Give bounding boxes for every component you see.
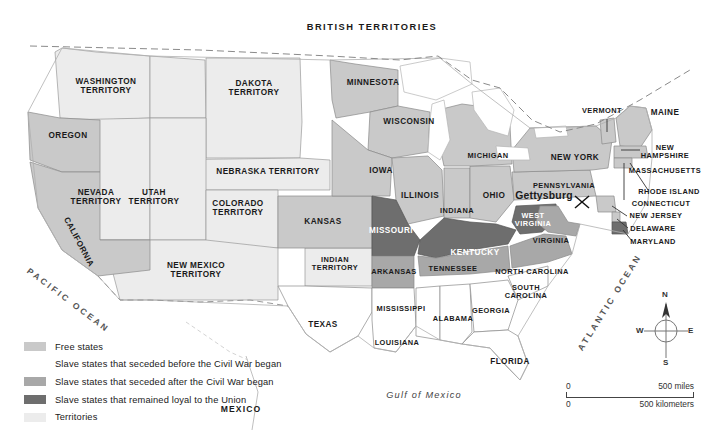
label-vermont: VERMONT — [578, 107, 626, 115]
label-indiana: INDIANA — [430, 207, 484, 215]
label-minnesota: MINNESOTA — [338, 79, 408, 88]
region-wisconsin — [368, 106, 430, 158]
map-legend: Free states Slave states that seceded be… — [24, 338, 282, 426]
legend-swatch-loyal-slave — [24, 395, 46, 404]
label-wisconsin: WISCONSIN — [376, 118, 442, 127]
compass-south-label: S — [663, 358, 668, 367]
legend-item-free-states: Free states — [24, 338, 282, 356]
legend-swatch-free-states — [24, 342, 46, 351]
label-new-mexico-territory: NEW MEXICO TERRITORY — [155, 262, 237, 280]
label-colorado-territory: COLORADO TERRITORY — [203, 200, 273, 218]
label-kentucky: KENTUCKY — [442, 249, 508, 258]
scale-bar: 0 500 miles 0 500 kilometers — [566, 381, 694, 409]
legend-label-territories: Territories — [55, 412, 97, 422]
legend-label-seceded-after: Slave states that seceded after the Civi… — [55, 377, 274, 387]
compass-rose: N E S W — [638, 292, 694, 368]
scale-miles-max: 500 miles — [658, 381, 694, 391]
lake-superior — [400, 58, 472, 100]
label-florida: FLORIDA — [481, 358, 539, 367]
compass-north-label: N — [662, 290, 668, 299]
label-west-virginia: WEST VIRGINIA — [506, 212, 560, 228]
label-new-hampshire: NEW HAMPSHIRE — [636, 144, 694, 160]
scale-miles: 0 500 miles — [566, 381, 694, 391]
label-alabama: ALABAMA — [424, 315, 482, 323]
scale-km-zero: 0 — [566, 399, 571, 409]
scale-kilometers: 0 500 kilometers — [566, 399, 694, 409]
region-mississippi — [416, 286, 440, 340]
region-oregon — [28, 112, 100, 172]
region-dakota-territory — [206, 58, 302, 158]
label-utah-territory: UTAH TERRITORY — [119, 189, 189, 207]
scale-miles-zero: 0 — [566, 381, 571, 391]
legend-item-seceded-after: Slave states that seceded after the Civi… — [24, 373, 282, 391]
legend-label-seceded-before: Slave states that seceded before the Civ… — [55, 359, 282, 369]
label-gettysburg: Gettysburg — [508, 190, 580, 201]
legend-item-seceded-before: Slave states that seceded before the Civ… — [24, 356, 282, 374]
label-south-carolina: SOUTH CAROLINA — [495, 284, 557, 300]
label-rhode-island: RHODE ISLAND — [630, 188, 708, 196]
label-new-jersey: NEW JERSEY — [622, 212, 690, 220]
label-kansas: KANSAS — [293, 218, 353, 227]
label-british-territories: BRITISH TERRITORIES — [302, 22, 442, 32]
legend-item-loyal-slave: Slave states that remained loyal to the … — [24, 391, 282, 409]
region-new-jersey — [596, 196, 616, 212]
label-missouri: MISSOURI — [358, 227, 424, 236]
label-maryland: MARYLAND — [622, 238, 684, 246]
region-vermont — [600, 118, 616, 144]
legend-swatch-seceded-after — [24, 377, 46, 386]
scale-bar-graphic — [566, 392, 694, 398]
label-mississippi: MISSISSIPPI — [368, 305, 434, 313]
label-georgia: GEORGIA — [464, 307, 518, 315]
compass-west-label: W — [636, 326, 644, 335]
legend-label-free-states: Free states — [55, 342, 103, 352]
scale-km-max: 500 kilometers — [640, 399, 694, 409]
compass-east-label: E — [688, 326, 693, 335]
label-virginia: VIRGINIA — [524, 237, 578, 245]
label-illinois: ILLINOIS — [392, 192, 448, 201]
region-texas — [278, 286, 372, 352]
label-connecticut: CONNECTICUT — [624, 200, 698, 208]
legend-swatch-territories — [24, 413, 46, 422]
label-gulf-of-mexico: Gulf of Mexico — [364, 391, 484, 401]
region-utah-territory — [150, 118, 206, 240]
label-texas: TEXAS — [293, 321, 353, 330]
legend-item-territories: Territories — [24, 408, 282, 426]
legend-swatch-seceded-before — [24, 360, 46, 369]
label-nebraska-territory: NEBRASKA TERRITORY — [208, 168, 328, 177]
label-dakota-territory: DAKOTA TERRITORY — [219, 80, 289, 98]
label-massachusetts: MASSACHUSETTS — [620, 167, 710, 175]
compass-graphic — [638, 292, 694, 368]
label-indian-territory: INDIAN TERRITORY — [305, 256, 365, 272]
label-maine: MAINE — [641, 109, 689, 118]
label-louisiana: LOUISIANA — [366, 339, 428, 347]
region-idaho-territory — [150, 56, 206, 118]
label-washington-territory: WASHINGTON TERRITORY — [67, 78, 145, 96]
label-michigan: MICHIGAN — [458, 152, 518, 160]
label-new-york: NEW YORK — [543, 154, 607, 163]
label-tennessee: TENNESSEE — [420, 265, 486, 273]
label-arkansas: ARKANSAS — [364, 268, 424, 276]
legend-label-loyal-slave: Slave states that remained loyal to the … — [55, 395, 246, 405]
label-pennsylvania: PENNSYLVANIA — [528, 182, 600, 190]
region-florida — [462, 330, 528, 380]
label-oregon: OREGON — [38, 132, 98, 141]
civil-war-map: BRITISH TERRITORIES MEXICO Gulf of Mexic… — [0, 0, 712, 448]
label-north-carolina: NORTH CAROLINA — [494, 268, 570, 276]
label-iowa: IOWA — [356, 167, 406, 176]
label-delaware: DELAWARE — [622, 225, 684, 233]
